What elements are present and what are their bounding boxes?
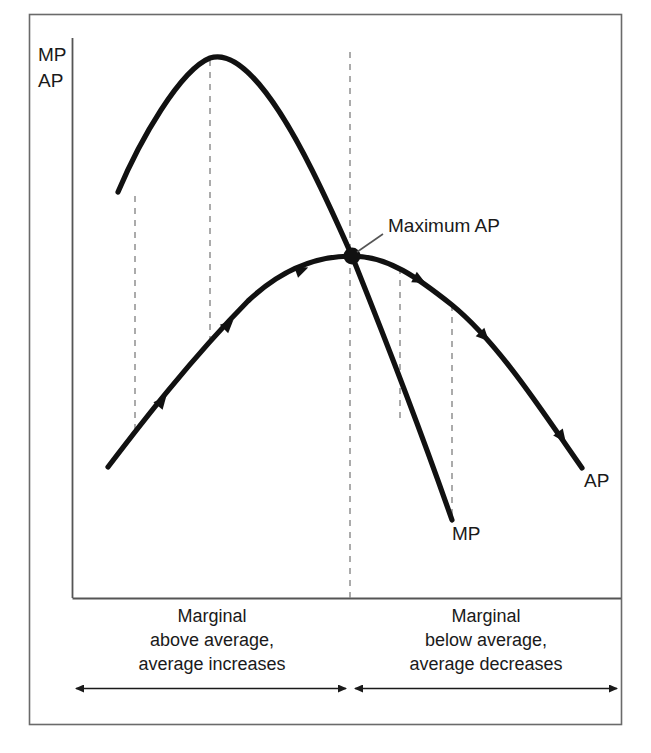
mp-curve-label: MP	[452, 523, 481, 544]
y-axis-label-ap: AP	[38, 70, 63, 91]
left-caption-line1: Marginal	[177, 606, 246, 626]
ap-direction-arrowheads	[153, 262, 570, 446]
maximum-ap-label: Maximum AP	[388, 215, 500, 236]
right-caption-line3: average decreases	[409, 654, 562, 674]
ap-curve	[108, 256, 582, 468]
figure-container: MP AP Maximum AP MP AP	[0, 0, 651, 753]
right-caption-line1: Marginal	[451, 606, 520, 626]
maximum-ap-leader-line	[357, 234, 383, 252]
mp-curve	[118, 57, 452, 520]
y-axis-label-mp: MP	[38, 44, 67, 65]
right-caption-line2: below average,	[425, 630, 547, 650]
left-caption-line2: above average,	[150, 630, 274, 650]
outer-frame	[30, 15, 622, 725]
left-caption-line3: average increases	[138, 654, 285, 674]
ap-curve-label: AP	[584, 470, 609, 491]
maximum-ap-point	[344, 248, 361, 265]
mp-ap-diagram: MP AP Maximum AP MP AP	[0, 0, 651, 753]
